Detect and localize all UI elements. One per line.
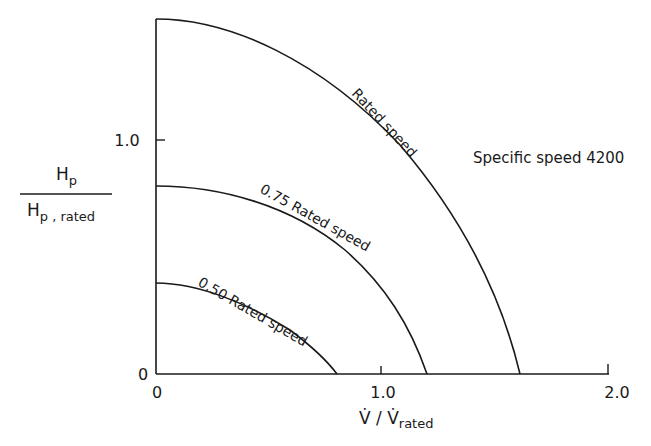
y-axis-label: Hp Hp , rated	[20, 164, 112, 224]
x-tick-label-0: 0	[152, 383, 162, 402]
y-tick-label-0: 0	[138, 365, 148, 384]
label-050-rated-speed: 0.50 Rated speed	[196, 274, 311, 350]
x-axis-label: V̇ / V̇rated	[359, 408, 433, 431]
curve-050-rated-speed	[156, 283, 337, 374]
label-075-rated-speed: 0.75 Rated speed	[258, 181, 374, 255]
pump-head-chart: 0 1.0 0 1.0 2.0 Hp Hp , rated V̇ / V̇rat…	[0, 0, 651, 446]
y-tick-label-1: 1.0	[114, 131, 139, 150]
svg-text:Hp , rated: Hp , rated	[27, 200, 95, 224]
x-tick-label-2: 2.0	[604, 383, 629, 402]
specific-speed-annotation: Specific speed 4200	[473, 149, 624, 167]
curve-075-rated-speed	[156, 186, 427, 374]
label-rated-speed: Rated speed	[349, 85, 421, 160]
x-tick-label-1: 1.0	[370, 383, 395, 402]
svg-text:Hp: Hp	[56, 164, 77, 188]
curve-rated-speed	[156, 19, 520, 374]
